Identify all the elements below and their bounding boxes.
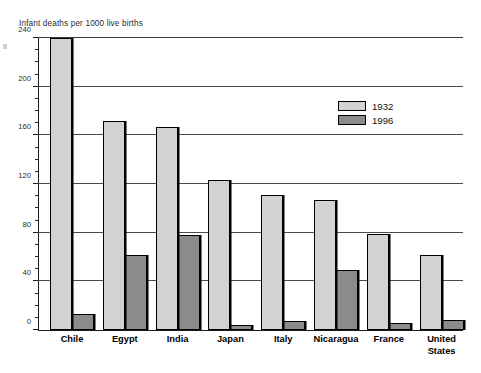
- bar-egypt-1996: [125, 255, 147, 330]
- x-axis-label-france: France: [362, 334, 415, 346]
- chart-title: Infant deaths per 1000 live births: [19, 19, 143, 28]
- bar-france-1932: [367, 234, 389, 330]
- legend-label-1932: 1932: [372, 101, 393, 112]
- x-axis-label-egypt: Egypt: [98, 334, 151, 346]
- y-tick-180: [35, 110, 38, 111]
- bar-united-states-1932: [420, 255, 442, 330]
- y-tick-130: [35, 171, 38, 172]
- y-tick-220: [35, 61, 38, 62]
- bar-chart: Infant deaths per 1000 live births 04080…: [0, 0, 481, 373]
- y-tick-80: [33, 232, 38, 233]
- y-tick-210: [35, 74, 38, 75]
- x-axis-label-italy: Italy: [257, 334, 310, 346]
- y-tick-160: [33, 134, 38, 135]
- bar-india-1932: [156, 127, 178, 330]
- bar-japan-1996: [230, 325, 252, 330]
- bar-japan-1932: [208, 180, 230, 330]
- legend: 1932 1996: [338, 100, 393, 128]
- y-axis-label-240: 240: [18, 25, 31, 34]
- legend-item-1932: 1932: [338, 100, 393, 112]
- x-axis-label-chile: Chile: [46, 334, 99, 346]
- bar-italy-1996: [283, 321, 305, 330]
- bar-chile-1932: [50, 38, 72, 330]
- bar-nicaragua-1932: [314, 200, 336, 330]
- y-tick-70: [35, 244, 38, 245]
- gridline-120: [38, 183, 463, 184]
- y-tick-120: [33, 183, 38, 184]
- gridline-240: [38, 37, 463, 38]
- bar-nicaragua-1996: [336, 270, 358, 330]
- bar-india-1996: [178, 235, 200, 330]
- x-axis-label-india: India: [151, 334, 204, 346]
- y-axis-label-200: 200: [18, 73, 31, 82]
- y-axis-label-160: 160: [18, 122, 31, 131]
- y-tick-140: [35, 159, 38, 160]
- x-axis-label-nicaragua: Nicaragua: [310, 334, 363, 346]
- y-tick-30: [35, 293, 38, 294]
- y-tick-240: [33, 37, 38, 38]
- y-tick-20: [35, 305, 38, 306]
- y-tick-0: [33, 329, 38, 330]
- x-axis-label-japan: Japan: [204, 334, 257, 346]
- y-tick-110: [35, 195, 38, 196]
- bar-egypt-1932: [103, 121, 125, 330]
- y-tick-100: [35, 207, 38, 208]
- y-tick-50: [35, 268, 38, 269]
- bar-france-1996: [389, 323, 411, 330]
- y-tick-40: [33, 280, 38, 281]
- legend-item-1996: 1996: [338, 114, 393, 126]
- bar-italy-1932: [261, 195, 283, 330]
- gridline-40: [38, 280, 463, 281]
- y-axis-label-120: 120: [18, 171, 31, 180]
- y-tick-10: [35, 317, 38, 318]
- y-tick-200: [33, 86, 38, 87]
- y-tick-170: [35, 122, 38, 123]
- bar-chile-1996: [72, 314, 94, 330]
- y-axis-label-80: 80: [23, 219, 31, 228]
- gridline-200: [38, 86, 463, 87]
- y-tick-90: [35, 220, 38, 221]
- y-tick-60: [35, 256, 38, 257]
- x-axis-label-united-states: United States: [415, 334, 468, 357]
- y-axis-label-40: 40: [23, 268, 31, 277]
- y-tick-230: [35, 49, 38, 50]
- bar-united-states-1996: [442, 320, 464, 330]
- gridline-80: [38, 232, 463, 233]
- x-axis-line: [38, 330, 463, 331]
- y-axis-label-0: 0: [27, 317, 31, 326]
- plot-area: 04080120160200240: [38, 38, 463, 330]
- y-tick-190: [35, 98, 38, 99]
- page-edge-artifact: [3, 44, 7, 49]
- gridline-160: [38, 134, 463, 135]
- legend-swatch-1932-icon: [338, 101, 366, 111]
- legend-swatch-1996-icon: [338, 115, 366, 125]
- legend-label-1996: 1996: [372, 115, 393, 126]
- y-tick-150: [35, 147, 38, 148]
